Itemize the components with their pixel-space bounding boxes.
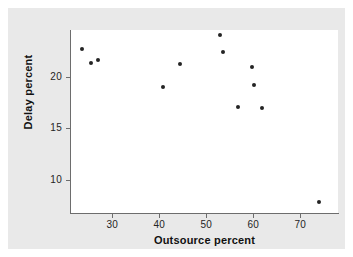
x-tick-label: 40 <box>144 219 174 230</box>
data-point <box>260 106 264 110</box>
y-axis-title: Delay percent <box>22 47 34 137</box>
x-tick-mark <box>300 214 301 218</box>
y-tick-label: 15 <box>42 122 62 133</box>
y-axis-line <box>70 30 71 214</box>
data-point <box>236 105 240 109</box>
x-tick-mark <box>159 214 160 218</box>
y-tick-mark <box>66 180 70 181</box>
y-tick-label: 20 <box>42 71 62 82</box>
x-tick-label: 30 <box>97 219 127 230</box>
x-tick-label: 70 <box>285 219 315 230</box>
data-point <box>80 47 84 51</box>
data-point <box>218 33 222 37</box>
y-tick-label: 10 <box>42 174 62 185</box>
y-tick-mark <box>66 77 70 78</box>
data-point <box>178 62 182 66</box>
x-tick-mark <box>112 214 113 218</box>
x-axis-title: Outsource percent <box>70 234 339 246</box>
plot-area <box>70 30 338 213</box>
x-tick-label: 60 <box>238 219 268 230</box>
figure-panel: 3040506070 201510 Outsource percent Dela… <box>8 8 345 249</box>
y-tick-mark <box>66 128 70 129</box>
data-point <box>317 200 321 204</box>
data-point <box>252 83 256 87</box>
x-tick-mark <box>253 214 254 218</box>
x-axis-line <box>70 213 339 214</box>
scatter-plot-screenshot: 3040506070 201510 Outsource percent Dela… <box>0 0 353 257</box>
data-point <box>161 85 165 89</box>
x-tick-mark <box>206 214 207 218</box>
data-point <box>221 50 225 54</box>
x-tick-label: 50 <box>191 219 221 230</box>
